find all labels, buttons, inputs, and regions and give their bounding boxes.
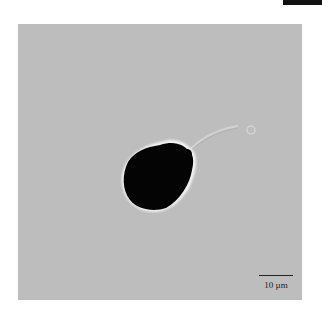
top-black-bar <box>283 0 322 5</box>
cell-image <box>18 24 302 300</box>
micrograph-panel <box>18 24 302 300</box>
tail <box>186 126 238 154</box>
scale-bar-label: 10 µm <box>259 280 293 290</box>
tail-ring <box>247 126 255 134</box>
scale-bar <box>259 275 293 276</box>
